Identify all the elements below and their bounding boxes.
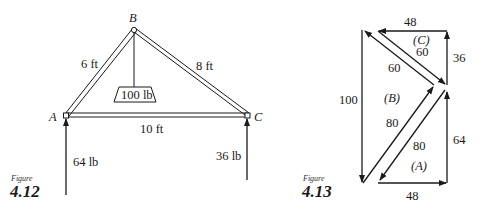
label-60-c: 60 — [416, 45, 429, 59]
label-48-bottom: 48 — [406, 189, 419, 203]
label-64: 64 — [453, 133, 466, 147]
load-label: 100 lb — [121, 88, 153, 102]
figure-caption-number-2: 4.13 — [301, 182, 332, 201]
member-label-ac: 10 ft — [140, 122, 164, 136]
region-label-b: (B) — [384, 91, 400, 105]
label-48-top: 48 — [404, 15, 417, 29]
node-label-c: C — [254, 110, 263, 124]
member-label-bc: 8 ft — [196, 59, 214, 73]
member-label-ab: 6 ft — [81, 57, 99, 71]
label-60-b: 60 — [388, 61, 401, 75]
figure-4-13-force-polygon — [362, 30, 447, 183]
label-80-a: 80 — [413, 139, 426, 153]
label-80-b: 80 — [386, 116, 399, 130]
label-100: 100 — [339, 93, 358, 107]
figure-caption-number: 4.12 — [9, 182, 40, 201]
diagram-canvas: B A C 6 ft 8 ft 10 ft 100 lb 64 lb 36 lb… — [0, 0, 486, 216]
figure-4-12-truss: B A C 6 ft 8 ft 10 ft 100 lb 64 lb 36 lb… — [9, 11, 263, 201]
force-60-c — [378, 31, 445, 84]
pin-b-icon — [131, 27, 136, 32]
node-label-b: B — [129, 11, 137, 25]
label-36: 36 — [453, 51, 466, 65]
member-ab — [65, 28, 136, 116]
pin-a-icon — [64, 113, 69, 118]
pin-c-icon — [245, 113, 250, 118]
member-ac — [66, 113, 248, 117]
region-label-a: (A) — [411, 159, 427, 173]
reaction-label-c: 36 lb — [216, 149, 241, 163]
reaction-label-a: 64 lb — [73, 155, 98, 169]
node-label-a: A — [48, 110, 57, 124]
